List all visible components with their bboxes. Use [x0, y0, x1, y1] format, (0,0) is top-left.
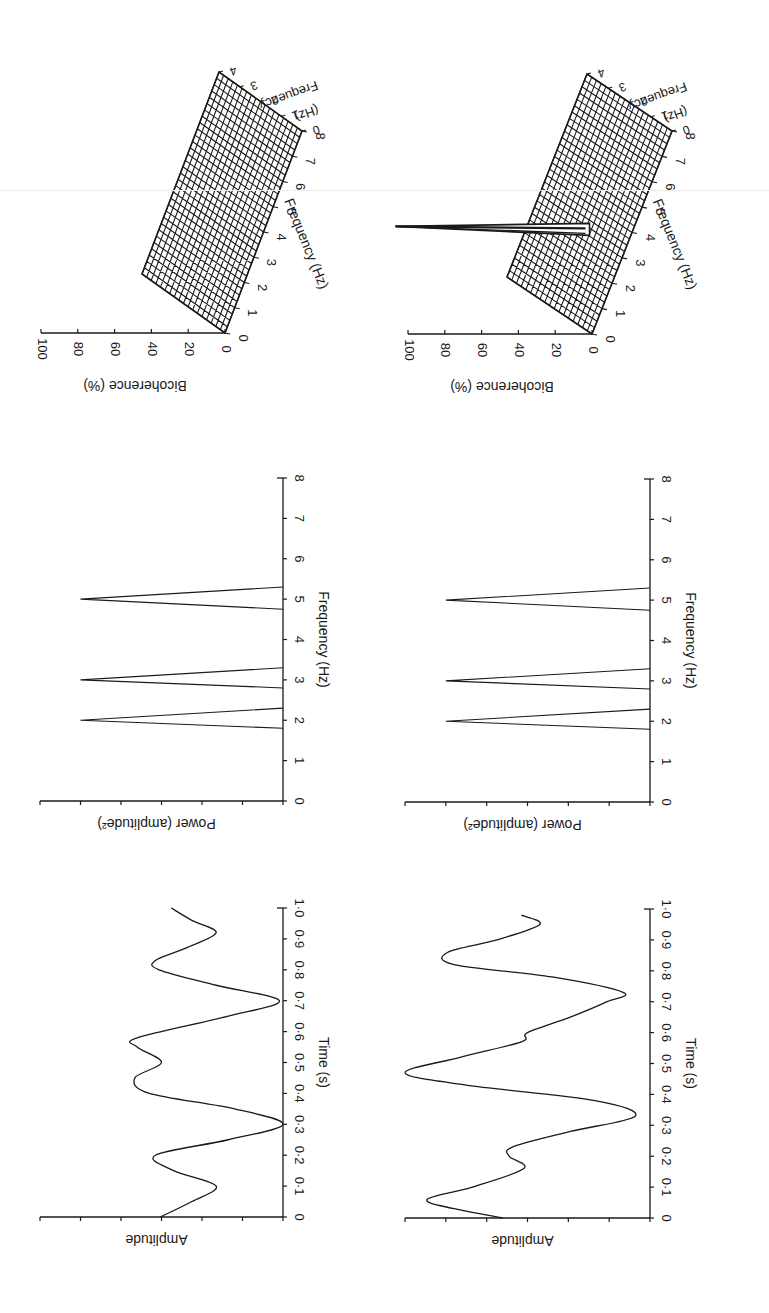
z-tick-label: 40: [512, 343, 527, 357]
x-tick-label: 2: [292, 717, 307, 724]
z-tick-label: 80: [71, 342, 86, 356]
f1-tick-label: 7: [303, 158, 318, 165]
f2-tick: [608, 87, 612, 88]
x-tick-label: 1: [292, 757, 307, 764]
f1-tick: [235, 308, 240, 309]
f2-tick-label: 3: [248, 78, 259, 94]
f1-tick-label: 2: [255, 284, 270, 291]
x-axis-title: Time (s): [316, 1037, 332, 1088]
x-tick-label: 0·7: [659, 992, 674, 1011]
z-tick-label: 0: [586, 346, 601, 353]
f2-tick: [672, 130, 676, 131]
f1-tick-label: 7: [673, 158, 688, 165]
x-tick-label: 4: [292, 636, 307, 643]
f1-tick: [264, 232, 269, 233]
figure-canvas: 00·10·20·30·40·50·60·70·80·91·0Time (s)A…: [0, 0, 769, 1313]
x-tick-label: 0·5: [292, 1053, 307, 1072]
f1-tick: [602, 309, 607, 310]
y-axis-title: Power (amplitude²): [463, 817, 581, 833]
x-tick-label: 7: [659, 516, 674, 523]
z-tick-label: 0: [219, 345, 234, 352]
x-tick-label: 0: [659, 1214, 674, 1221]
x-tick-label: 0·2: [292, 1146, 307, 1165]
z-tick-label: 100: [35, 338, 50, 360]
x-tick-label: 0·9: [659, 931, 674, 950]
x-tick-label: 0·4: [292, 1084, 307, 1103]
f1-tick-label: 3: [264, 259, 279, 266]
x-tick-label: 0·6: [659, 1023, 674, 1042]
x-tick-label: 0: [292, 1213, 307, 1220]
f1-tick: [622, 258, 627, 259]
z-tick-label: 100: [402, 339, 417, 361]
f1-tick: [292, 156, 297, 157]
f1-tick-label: 4: [274, 233, 289, 240]
f1-tick-label: 0: [236, 334, 251, 341]
x-tick-label: 0·1: [292, 1177, 307, 1196]
spectral-peak: [81, 668, 284, 688]
power-spectrum-panel-b: 012345678Frequency (Hz)Power (amplitude²…: [405, 475, 699, 833]
time-series-panel-b: 00·10·20·30·40·50·60·70·80·91·0Time (s)A…: [405, 900, 699, 1250]
f1-tick: [612, 283, 617, 284]
f2-tick-label: 0: [680, 122, 691, 138]
f1-tick: [662, 156, 667, 157]
z-axis-title: Bicoherence (%): [450, 379, 554, 395]
x-tick-label: 0·8: [659, 961, 674, 980]
x-tick-label: 1·0: [659, 900, 674, 919]
x-tick-label: 0·7: [292, 991, 307, 1010]
f1-tick: [273, 207, 278, 208]
f1-tick: [225, 333, 230, 334]
f2-axis-title-unit: (Hz): [662, 103, 690, 125]
x-tick-label: 0·5: [659, 1054, 674, 1073]
time-series-panel-a: 00·10·20·30·40·50·60·70·80·91·0Time (s)A…: [40, 899, 332, 1249]
x-tick-label: 5: [292, 596, 307, 603]
f2-tick-label: 4: [595, 65, 606, 81]
f2-tick: [651, 116, 655, 117]
z-tick-label: 60: [475, 343, 490, 357]
f2-tick: [281, 115, 285, 116]
f1-tick: [632, 233, 637, 234]
x-tick-label: 0·1: [659, 1178, 674, 1197]
y-axis-title: Amplitude: [491, 1233, 553, 1249]
bicoherence-panel-b: 020406080100Bicoherence (%)012345678Freq…: [396, 65, 701, 395]
f1-axis-title: Frequency (Hz): [281, 196, 332, 291]
f1-axis-title: Frequency (Hz): [650, 196, 701, 291]
spectral-peak: [446, 588, 650, 610]
x-tick-label: 0: [659, 798, 674, 805]
spectral-peak: [81, 587, 284, 609]
y-axis-title: Power (amplitude²): [97, 816, 215, 832]
z-tick-label: 40: [145, 342, 160, 356]
x-tick-label: 0·3: [292, 1115, 307, 1134]
bicoherence-panel-a: 020406080100Bicoherence (%)012345678Freq…: [35, 63, 333, 394]
surface-mesh: [507, 74, 672, 334]
f1-tick: [642, 207, 647, 208]
x-tick-label: 1: [659, 758, 674, 765]
f1-tick-label: 3: [633, 259, 648, 266]
f2-tick: [219, 71, 223, 72]
z-tick-label: 20: [182, 342, 197, 356]
x-tick-label: 6: [292, 555, 307, 562]
f1-tick: [283, 182, 288, 183]
x-tick-label: 0·8: [292, 960, 307, 979]
f1-tick-label: 4: [643, 234, 658, 241]
x-axis-title: Frequency (Hz): [316, 591, 332, 687]
x-tick-label: 0·9: [292, 930, 307, 949]
x-tick-label: 5: [659, 597, 674, 604]
f2-tick: [302, 130, 306, 131]
x-tick-label: 0·2: [659, 1147, 674, 1166]
figure: 00·10·20·30·40·50·60·70·80·91·0Time (s)A…: [0, 0, 769, 1313]
spectral-peak: [446, 709, 650, 729]
x-axis-title: Time (s): [683, 1038, 699, 1089]
x-tick-label: 1·0: [292, 899, 307, 918]
power-spectrum-panel-a: 012345678Frequency (Hz)Power (amplitude²…: [40, 474, 332, 832]
x-tick-label: 8: [292, 474, 307, 481]
signal-curve: [129, 908, 283, 1217]
x-tick-label: 3: [659, 677, 674, 684]
x-tick-label: 2: [659, 718, 674, 725]
x-axis-title: Frequency (Hz): [683, 592, 699, 688]
x-tick-label: 0: [292, 797, 307, 804]
x-tick-label: 0·3: [659, 1116, 674, 1135]
f2-tick: [240, 86, 244, 87]
surface-mesh: [142, 72, 302, 333]
f1-tick: [254, 257, 259, 258]
scan-artifact-line: [0, 190, 769, 191]
